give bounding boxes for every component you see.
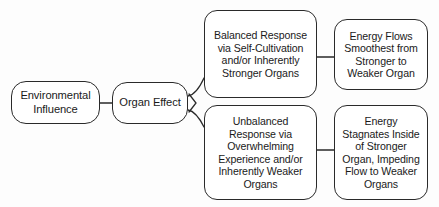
node-environmental-influence-label: Environmental Influence xyxy=(16,89,94,115)
node-organ-effect[interactable]: Organ Effect xyxy=(112,82,188,124)
flowchart-canvas: Environmental Influence Organ Effect Bal… xyxy=(0,0,439,207)
node-energy-flows-label: Energy Flows Smoothest from Stronger to … xyxy=(340,30,421,80)
node-energy-flows[interactable]: Energy Flows Smoothest from Stronger to … xyxy=(334,19,428,90)
edge-organ-to-balanced xyxy=(188,78,204,96)
node-energy-stagnates[interactable]: Energy Stagnates Inside of Stronger Orga… xyxy=(334,105,428,200)
node-environmental-influence[interactable]: Environmental Influence xyxy=(11,81,100,124)
node-balanced-response[interactable]: Balanced Response via Self-Cultivation a… xyxy=(204,10,317,98)
node-energy-stagnates-label: Energy Stagnates Inside of Stronger Orga… xyxy=(338,115,423,190)
edge-organ-to-unbalanced xyxy=(188,110,204,127)
node-balanced-response-label: Balanced Response via Self-Cultivation a… xyxy=(210,29,311,79)
node-unbalanced-response-label: Unbalanced Response via Overwhelming Exp… xyxy=(214,115,306,190)
edge-branch-vertex xyxy=(189,94,196,112)
node-organ-effect-label: Organ Effect xyxy=(115,96,184,109)
node-unbalanced-response[interactable]: Unbalanced Response via Overwhelming Exp… xyxy=(204,105,317,200)
